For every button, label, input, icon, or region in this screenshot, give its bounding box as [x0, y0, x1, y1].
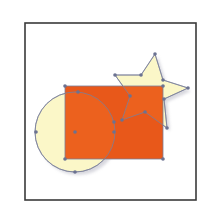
anchor-point[interactable]: [139, 73, 143, 77]
anchor-point[interactable]: [120, 118, 124, 122]
anchor-point[interactable]: [112, 120, 116, 124]
anchor-point[interactable]: [153, 52, 157, 56]
anchor-point[interactable]: [161, 157, 165, 161]
anchor-point[interactable]: [161, 84, 165, 88]
anchor-point[interactable]: [73, 130, 77, 134]
anchor-point[interactable]: [162, 97, 166, 101]
anchor-point[interactable]: [128, 94, 132, 98]
anchor-point[interactable]: [143, 110, 147, 114]
anchor-point[interactable]: [73, 170, 77, 174]
anchor-point[interactable]: [76, 90, 80, 94]
anchor-point[interactable]: [186, 86, 190, 90]
anchor-point[interactable]: [165, 126, 169, 130]
anchor-point[interactable]: [161, 78, 165, 82]
anchor-point[interactable]: [112, 130, 116, 134]
shapes-illustration: [0, 0, 204, 207]
anchor-point[interactable]: [63, 84, 67, 88]
anchor-point[interactable]: [113, 73, 117, 77]
anchor-point[interactable]: [63, 157, 67, 161]
anchor-point[interactable]: [34, 130, 38, 134]
